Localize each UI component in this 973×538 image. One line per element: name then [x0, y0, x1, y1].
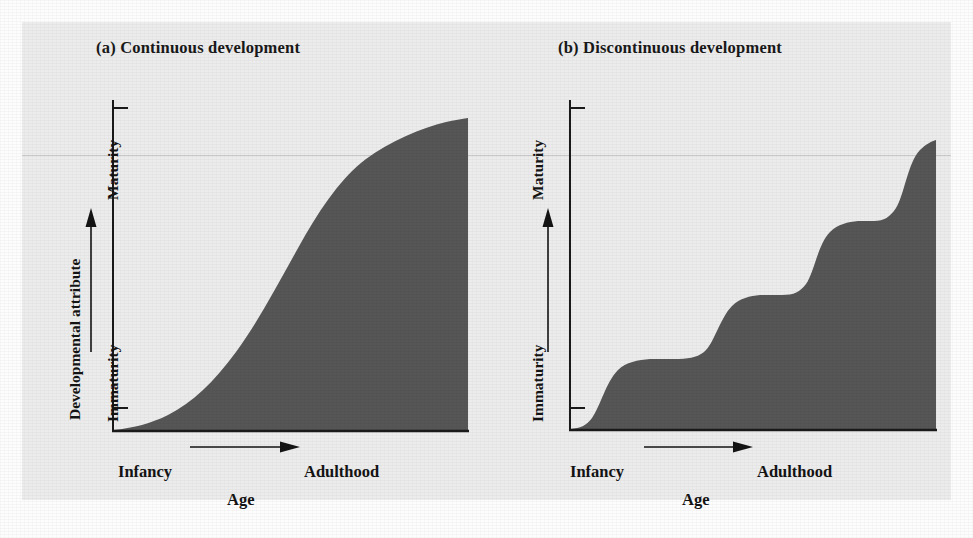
panel-continuous-development: (a) Continuous development Developmental…: [22, 22, 492, 500]
panel-b-x-left-label: Infancy: [570, 462, 624, 482]
panel-a-x-axis-title: Age: [227, 490, 255, 510]
panel-a-x-left-label: Infancy: [118, 462, 172, 482]
panel-b-area-curve: [571, 140, 936, 429]
panel-a-outer-y-label: Developmental attribute: [66, 259, 84, 420]
panel-a-y-arrow-head: [86, 208, 97, 227]
panel-a-y-top-label: Maturity: [104, 140, 122, 200]
panel-a-y-bottom-label: Immaturity: [104, 345, 122, 423]
panel-b-y-bottom-label: Immaturity: [529, 345, 547, 423]
panel-b-y-top-label: Maturity: [529, 140, 547, 200]
figure-container: (a) Continuous development Developmental…: [0, 0, 973, 538]
panel-b-x-axis-title: Age: [682, 490, 710, 510]
panel-b-x-arrow-head: [733, 442, 753, 453]
panel-a-plot: [22, 22, 492, 500]
panel-b-y-arrow-head: [543, 208, 554, 227]
panel-a-x-right-label: Adulthood: [304, 462, 379, 482]
panel-a-area-curve: [114, 118, 468, 430]
panel-b-x-right-label: Adulthood: [757, 462, 832, 482]
panel-discontinuous-development: (b) Discontinuous development Maturity I…: [492, 22, 951, 500]
panel-b-plot: [492, 22, 951, 500]
panel-a-x-arrow-head: [280, 442, 300, 453]
